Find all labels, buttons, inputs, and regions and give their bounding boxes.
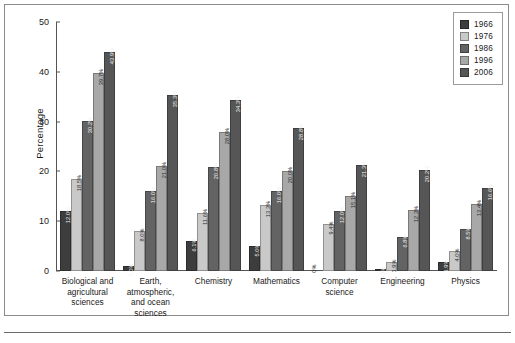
y-axis-tick: 40 [0, 67, 56, 77]
bar-value-label: 34.3% [236, 96, 242, 112]
x-axis-category-label: Chemistry [182, 276, 245, 318]
bar-value-label: 20.2% [425, 166, 431, 182]
bar[interactable]: 28.0% [219, 132, 230, 271]
bar-group: 5.0%13.3%16.0%20.0%28.8% [245, 22, 308, 271]
y-axis-tick-label: 10 [39, 216, 56, 226]
legend-item[interactable]: 1996 [460, 55, 493, 66]
bar[interactable]: 20.2% [419, 170, 430, 271]
y-axis-tick-label: 20 [39, 166, 56, 176]
bar[interactable]: 16.6% [482, 188, 493, 271]
bar[interactable]: 20.8% [208, 167, 219, 271]
chart-legend: 19661976198619962006 [453, 12, 503, 85]
x-axis-category-label: Computer science [308, 276, 371, 318]
bar-group: 1.0%8.0%16.0%21.0%35.3% [119, 22, 182, 271]
y-axis-tick-label: 50 [39, 17, 56, 27]
bar[interactable]: 35.3% [167, 95, 178, 271]
bar[interactable]: 43.9% [104, 52, 115, 271]
bar-value-label: 43.9% [110, 48, 116, 64]
bar[interactable]: 28.8% [293, 128, 304, 271]
bar[interactable]: 21.0% [156, 166, 167, 271]
bar[interactable]: 8.0% [134, 231, 145, 271]
legend-item[interactable]: 2006 [460, 67, 493, 78]
bar[interactable]: 39.7% [93, 73, 104, 271]
bottom-rule [4, 332, 511, 333]
y-axis-tick: 30 [0, 117, 56, 127]
legend-swatch-icon [460, 20, 469, 29]
bar-value-label: 16.6% [488, 184, 494, 200]
y-axis-tick-label: 0 [44, 266, 56, 276]
bar-group: 12.0%18.5%30.2%39.7%43.9% [56, 22, 119, 271]
legend-item-label: 2006 [474, 68, 493, 77]
bar[interactable]: 11.6% [197, 213, 208, 271]
bar[interactable]: 9.4% [323, 224, 334, 271]
bar-value-label: 21.3% [362, 161, 368, 177]
legend-item-label: 1986 [474, 44, 493, 53]
bar-value-label: 35.3% [173, 91, 179, 107]
bar-group: 0.3%1.9%6.8%12.3%20.2% [371, 22, 434, 271]
y-axis-tick: 20 [0, 166, 56, 176]
x-axis-category-label: Biological and agricultural sciences [56, 276, 119, 318]
bar-value-label: 28.8% [299, 123, 305, 139]
bar[interactable]: 0.3% [375, 269, 386, 271]
y-axis-tick: 50 [0, 17, 56, 27]
bar[interactable]: 12.0% [334, 211, 345, 271]
legend-item-label: 1976 [474, 32, 493, 41]
bar-group: 6.1%11.6%20.8%28.0%34.3% [182, 22, 245, 271]
x-axis-category-label: Mathematics [245, 276, 308, 318]
x-axis-category-label: Physics [434, 276, 497, 318]
y-axis-tick: 10 [0, 216, 56, 226]
bar[interactable]: 13.3% [260, 205, 271, 271]
bar[interactable]: 5.0% [249, 246, 260, 271]
bar[interactable]: 6.8% [397, 237, 408, 271]
chart-figure: Percentage 01020304050 12.0%18.5%30.2%39… [0, 0, 515, 343]
bar[interactable]: 4.0% [449, 251, 460, 271]
bar[interactable]: 15.1% [345, 196, 356, 271]
legend-item[interactable]: 1966 [460, 19, 493, 30]
bar-groups: 12.0%18.5%30.2%39.7%43.9%1.0%8.0%16.0%21… [56, 22, 497, 271]
bar[interactable]: 34.3% [230, 100, 241, 271]
bar[interactable]: 1.0% [123, 266, 134, 271]
y-axis-tick-label: 40 [39, 67, 56, 77]
legend-item[interactable]: 1986 [460, 43, 493, 54]
y-axis-tick: 0 [0, 266, 56, 276]
y-axis-tick-label: 30 [39, 117, 56, 127]
bar-value-label: 0% [312, 265, 318, 273]
y-axis-title: Percentage [34, 89, 45, 179]
bar[interactable]: 18.5% [71, 179, 82, 271]
legend-item-label: 1966 [474, 20, 493, 29]
bar[interactable]: 21.3% [356, 165, 367, 271]
bar[interactable]: 12.0% [60, 211, 71, 271]
bar-group: 0%9.4%12.0%15.1%21.3% [308, 22, 371, 271]
bar[interactable]: 12.3% [408, 210, 419, 271]
legend-item-label: 1996 [474, 56, 493, 65]
bar[interactable]: 6.1% [186, 241, 197, 271]
legend-swatch-icon [460, 68, 469, 77]
x-axis-category-label: Earth, atmospheric, and ocean sciences [119, 276, 182, 318]
legend-item[interactable]: 1976 [460, 31, 493, 42]
bar[interactable]: 16.0% [145, 191, 156, 271]
legend-swatch-icon [460, 32, 469, 41]
bar[interactable]: 8.5% [460, 229, 471, 271]
bar[interactable]: 20.0% [282, 171, 293, 271]
legend-swatch-icon [460, 56, 469, 65]
bar[interactable]: 16.0% [271, 191, 282, 271]
x-axis-category-label: Engineering [371, 276, 434, 318]
x-axis-categories: Biological and agricultural sciencesEart… [56, 276, 497, 318]
bar[interactable]: 30.2% [82, 121, 93, 271]
legend-swatch-icon [460, 44, 469, 53]
bar[interactable]: 13.4% [471, 204, 482, 271]
bar[interactable]: 1.9% [386, 262, 397, 271]
bar[interactable]: 1.9% [438, 262, 449, 271]
